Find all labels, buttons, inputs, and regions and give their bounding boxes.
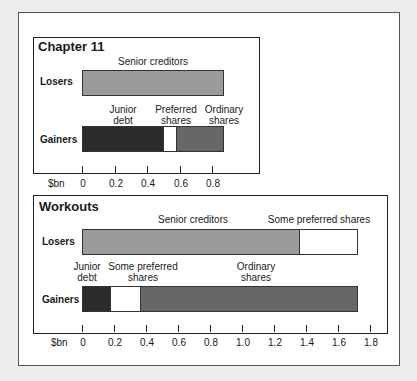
label-some-preferred-shares: Some preferred shares bbox=[268, 214, 370, 225]
tick bbox=[147, 166, 148, 173]
tick bbox=[242, 325, 243, 332]
tick-label: 0.4 bbox=[141, 178, 155, 189]
tick bbox=[115, 166, 116, 173]
row-label-gainers: Gainers bbox=[42, 294, 79, 305]
tick-label: 0.6 bbox=[174, 178, 188, 189]
tick bbox=[180, 166, 181, 173]
row-label-losers: Losers bbox=[40, 76, 73, 87]
bar-senior-creditors bbox=[82, 70, 224, 96]
tick-label: 0.8 bbox=[204, 337, 218, 348]
tick bbox=[212, 166, 213, 173]
tick bbox=[306, 325, 307, 332]
axis-unit: $bn bbox=[48, 178, 65, 189]
axis-unit: $bn bbox=[51, 337, 68, 348]
chapter11-title: Chapter 11 bbox=[38, 39, 104, 54]
tick bbox=[210, 325, 211, 332]
tick-label: 0.6 bbox=[172, 337, 186, 348]
bar-ordinary-shares bbox=[140, 286, 358, 312]
bar-ordinary-shares bbox=[176, 126, 224, 152]
tick-label: 0.2 bbox=[109, 178, 123, 189]
tick-label: 0 bbox=[80, 337, 86, 348]
tick-label: 1.4 bbox=[300, 337, 314, 348]
label-senior-creditors: Senior creditors bbox=[158, 214, 228, 225]
tick-label: 1.6 bbox=[332, 337, 346, 348]
tick-label: 0.8 bbox=[206, 178, 220, 189]
bar-some-preferred-shares bbox=[299, 229, 358, 255]
bar-junior-debt bbox=[82, 286, 111, 312]
tick-label: 0.2 bbox=[108, 337, 122, 348]
tick-label: 1.8 bbox=[364, 337, 378, 348]
bar-senior-creditors bbox=[82, 229, 300, 255]
tick-label: 1.0 bbox=[236, 337, 250, 348]
tick-label: 0 bbox=[80, 178, 86, 189]
bar-preferred-shares bbox=[163, 126, 177, 152]
bar-some-preferred-shares bbox=[110, 286, 141, 312]
tick-label: 0.4 bbox=[140, 337, 154, 348]
label-some-preferred-shares: Some preferredshares bbox=[108, 261, 177, 283]
label-junior-debt: Juniordebt bbox=[109, 104, 136, 126]
tick bbox=[274, 325, 275, 332]
tick bbox=[82, 325, 83, 332]
label-ordinary-shares: Ordinaryshares bbox=[237, 261, 275, 283]
bar-junior-debt bbox=[82, 126, 164, 152]
tick bbox=[146, 325, 147, 332]
tick bbox=[338, 325, 339, 332]
workouts-title: Workouts bbox=[39, 199, 99, 214]
label-preferred-shares: Preferredshares bbox=[155, 104, 197, 126]
label-ordinary-shares: Ordinaryshares bbox=[205, 104, 243, 126]
tick bbox=[370, 325, 371, 332]
row-label-gainers: Gainers bbox=[40, 134, 77, 145]
tick bbox=[114, 325, 115, 332]
label-junior-debt: Juniordebt bbox=[73, 261, 100, 283]
tick bbox=[178, 325, 179, 332]
row-label-losers: Losers bbox=[42, 236, 75, 247]
tick bbox=[82, 166, 83, 173]
label-senior-creditors: Senior creditors bbox=[118, 56, 188, 67]
tick-label: 1.2 bbox=[268, 337, 282, 348]
